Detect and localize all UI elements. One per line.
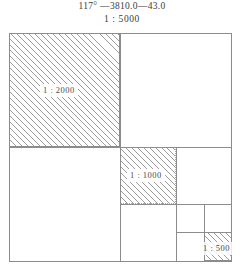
division-line-horizontal-level3 xyxy=(176,232,232,233)
division-line-horizontal-level1 xyxy=(9,147,232,148)
figure-subtitle-scale: 1 : 5000 xyxy=(0,13,244,26)
map-sheet-subdivision-figure: 117° —3810.0—43.0 1 : 5000 1 : 2000 1 : … xyxy=(0,0,244,272)
scale-1000-label: 1 : 1000 xyxy=(127,169,165,182)
subdivision-diagram: 1 : 2000 1 : 1000 1 : 500 xyxy=(9,33,232,262)
division-line-horizontal-level2 xyxy=(120,204,232,205)
figure-title: 117° —3810.0—43.0 xyxy=(0,0,244,13)
figure-heading: 117° —3810.0—43.0 1 : 5000 xyxy=(0,0,244,26)
scale-2000-label: 1 : 2000 xyxy=(40,84,78,97)
scale-500-label: 1 : 500 xyxy=(200,242,233,255)
